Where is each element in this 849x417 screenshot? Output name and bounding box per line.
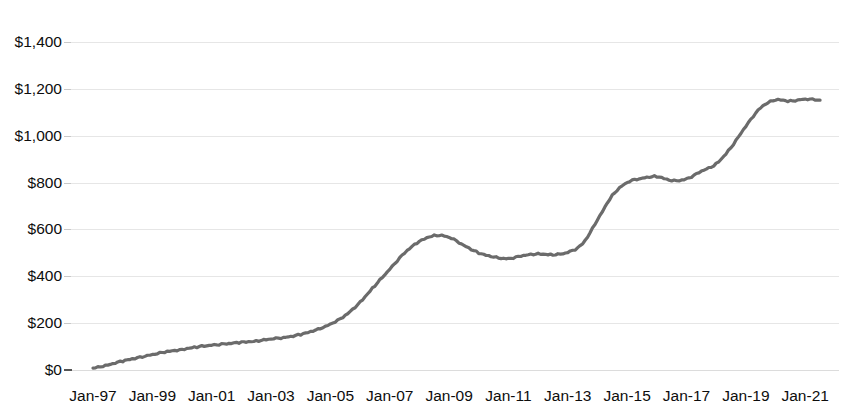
chart-title xyxy=(0,0,849,7)
y-axis-label: $1,000 xyxy=(0,128,62,144)
line-chart: $1,400$1,200$1,000$800$600$400$200$0 Jan… xyxy=(0,0,849,417)
gridline xyxy=(71,370,839,371)
y-axis: $1,400$1,200$1,000$800$600$400$200$0 xyxy=(0,0,62,417)
y-axis-tick xyxy=(64,136,71,137)
y-axis-label: $600 xyxy=(0,221,62,237)
y-axis-label: $1,400 xyxy=(0,34,62,50)
y-axis-label: $0 xyxy=(0,362,62,378)
y-axis-tick xyxy=(64,323,71,324)
x-axis-label: Jan-21 xyxy=(765,386,845,405)
y-axis-label: $800 xyxy=(0,175,62,191)
y-axis-tick xyxy=(64,229,71,230)
x-axis: Jan-97Jan-99Jan-01Jan-03Jan-05Jan-07Jan-… xyxy=(0,386,849,410)
y-axis-tick xyxy=(64,369,72,371)
plot-area xyxy=(71,42,839,370)
y-axis-tick xyxy=(64,89,71,90)
y-axis-label: $1,200 xyxy=(0,81,62,97)
y-axis-label: $200 xyxy=(0,315,62,331)
data-series-line xyxy=(65,42,839,370)
y-axis-label: $400 xyxy=(0,268,62,284)
y-axis-tick xyxy=(64,276,71,277)
y-axis-tick xyxy=(64,183,71,184)
y-axis-tick xyxy=(64,42,71,43)
